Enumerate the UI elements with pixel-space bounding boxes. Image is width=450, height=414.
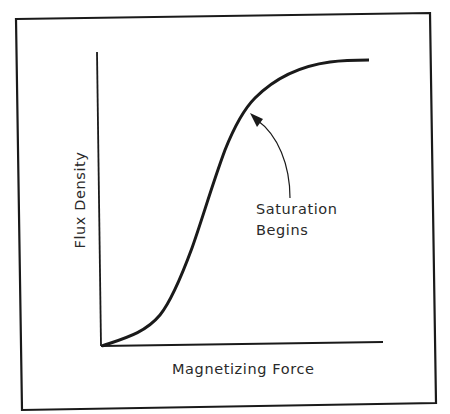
- y-axis: [97, 52, 101, 346]
- annotation-line-2: Begins: [256, 222, 308, 238]
- annotation-line-1: Saturation: [256, 201, 338, 217]
- arrowhead-icon: [250, 113, 263, 127]
- diagram-canvas: [0, 0, 450, 414]
- x-axis-label: Magnetizing Force: [172, 361, 315, 377]
- x-axis: [101, 342, 383, 346]
- saturation-arrow: [257, 120, 290, 198]
- y-axis-label: Flux Density: [72, 151, 88, 248]
